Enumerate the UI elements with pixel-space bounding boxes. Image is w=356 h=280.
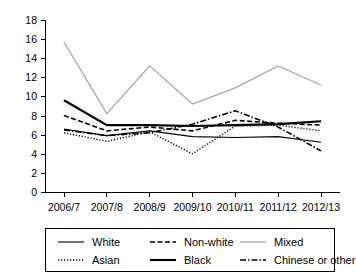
x-tick-label: 2010/11	[217, 201, 254, 213]
legend-label-black: Black	[184, 254, 211, 266]
chart-canvas: 024681012141618 2006/72007/82008/92009/1…	[0, 0, 356, 280]
line-chart: 024681012141618 2006/72007/82008/92009/1…	[0, 0, 356, 280]
series-line-mixed	[64, 42, 321, 114]
legend-label-white: White	[92, 236, 120, 248]
y-tick-label: 14	[25, 52, 37, 64]
y-tick-label: 18	[25, 14, 37, 26]
legend-label-non-white: Non-white	[184, 236, 234, 248]
x-tick-label: 2009/10	[174, 201, 212, 213]
y-tick-label: 10	[25, 90, 37, 102]
x-tick-label: 2007/8	[91, 201, 123, 213]
y-tick-label: 8	[31, 110, 37, 122]
x-tick-label: 2008/9	[134, 201, 166, 213]
series-lines	[64, 42, 321, 154]
y-tick-label: 6	[31, 129, 37, 141]
y-tick-label: 12	[25, 71, 37, 83]
x-tick-label: 2011/12	[260, 201, 297, 213]
legend: WhiteNon-whiteMixedAsianBlackChinese or …	[58, 236, 356, 266]
y-tick-label: 0	[31, 186, 37, 198]
y-axis-ticks: 024681012141618	[25, 14, 45, 198]
legend-label-chinese-or-other: Chinese or other	[274, 254, 356, 266]
y-tick-label: 16	[25, 33, 37, 45]
legend-label-mixed: Mixed	[274, 236, 303, 248]
y-tick-label: 4	[31, 148, 37, 160]
legend-label-asian: Asian	[92, 254, 120, 266]
y-tick-label: 2	[31, 167, 37, 179]
x-tick-label: 2006/7	[48, 201, 80, 213]
x-tick-label: 2012/13	[302, 201, 340, 213]
x-axis-ticks: 2006/72007/82008/92009/102010/112011/122…	[48, 193, 340, 214]
